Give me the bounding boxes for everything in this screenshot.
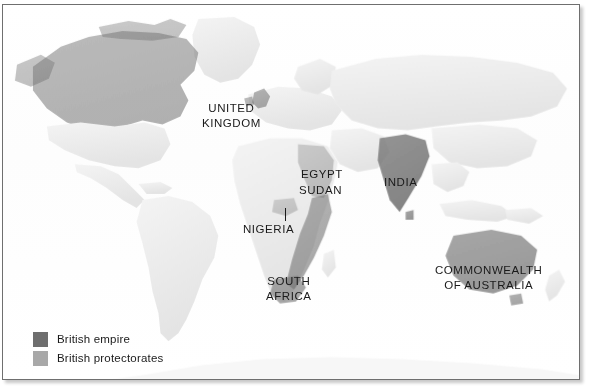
landmass-new-zealand — [545, 270, 565, 302]
map-ocean-canvas: UNITED KINGDOM EGYPT SUDAN INDIA NIGERIA… — [3, 5, 579, 379]
landmass-indonesia — [439, 200, 515, 222]
landmass-east-asia — [432, 124, 538, 168]
landmass-central-america — [75, 164, 145, 208]
landmass-south-america — [137, 196, 219, 341]
landmass-madagascar — [322, 250, 336, 278]
region-south-africa — [270, 276, 306, 304]
landmass-svg — [3, 5, 579, 379]
map-legend: British empire British protectorates — [33, 331, 163, 366]
landmass-sri-lanka — [406, 210, 414, 220]
legend-swatch-british-empire — [33, 332, 48, 347]
landmass-southeast-asia — [432, 162, 470, 192]
landmass-tasmania — [509, 293, 523, 305]
landmass-australia — [445, 230, 537, 294]
landmass-caribbean — [139, 182, 173, 194]
legend-swatch-british-protectorates — [33, 351, 48, 366]
map-frame: UNITED KINGDOM EGYPT SUDAN INDIA NIGERIA… — [2, 4, 580, 380]
landmass-united-states — [47, 122, 171, 168]
nigeria-leader-line — [285, 208, 286, 221]
landmass-india — [378, 134, 430, 212]
landmass-layer — [3, 5, 579, 379]
legend-item-british-empire: British empire — [33, 331, 163, 347]
legend-item-british-protectorates: British protectorates — [33, 350, 163, 366]
landmass-arctic-islands — [99, 19, 187, 41]
legend-label-british-empire: British empire — [57, 333, 130, 345]
legend-label-british-protectorates: British protectorates — [57, 352, 163, 364]
landmass-canada — [33, 31, 198, 138]
landmass-new-guinea — [505, 208, 543, 224]
world-map-figure: UNITED KINGDOM EGYPT SUDAN INDIA NIGERIA… — [0, 0, 591, 388]
landmass-greenland — [192, 17, 260, 83]
landmass-asia-russia — [330, 55, 567, 131]
landmass-antarctica — [113, 357, 579, 379]
